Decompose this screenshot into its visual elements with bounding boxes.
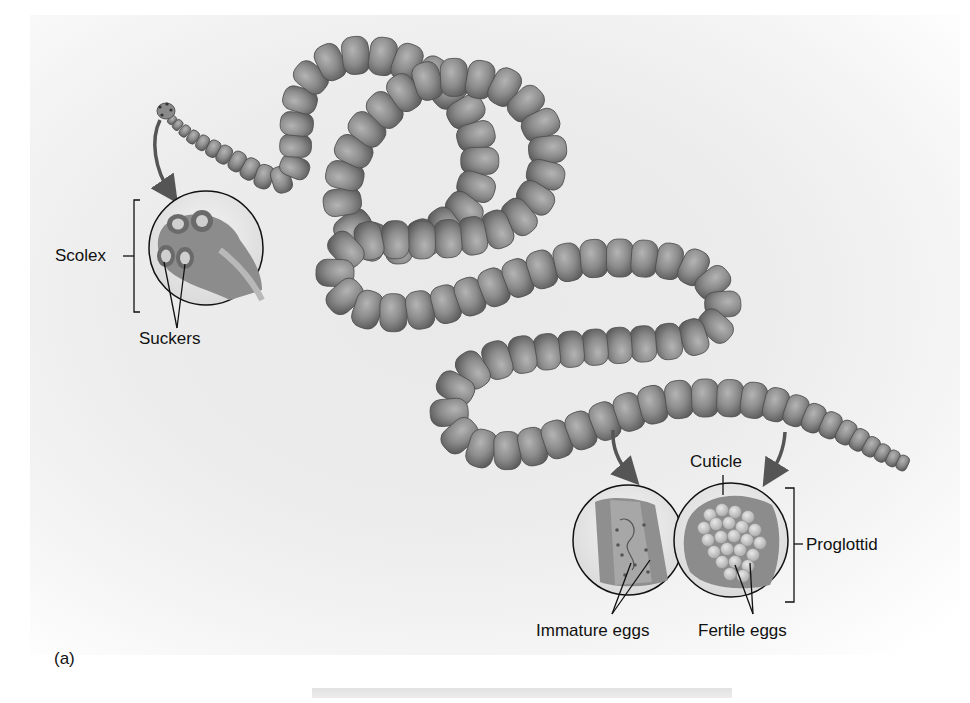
suckers-label: Suckers — [139, 330, 200, 347]
scolex-arrow — [155, 120, 170, 192]
proglottid-segment — [279, 134, 312, 158]
proglottid-segment — [433, 219, 463, 259]
scolex-head — [157, 102, 175, 119]
egg-icon — [715, 531, 728, 544]
egg-icon — [716, 556, 729, 569]
scolex-inset — [149, 191, 263, 305]
fertile-arrow — [770, 432, 785, 475]
immature-eggs-label: Immature eggs — [536, 622, 649, 639]
egg-icon — [724, 568, 737, 581]
proglottid-segment — [716, 379, 744, 417]
scolex-bracket — [134, 200, 140, 312]
egg-icon — [716, 504, 729, 517]
proglottid-segment — [630, 239, 659, 278]
panel-label: (a) — [54, 650, 75, 667]
scolex-label: Scolex — [55, 247, 106, 264]
proglottid-segment — [654, 322, 684, 361]
proglottid-segment — [629, 325, 657, 363]
proglottid-segment — [340, 35, 371, 75]
proglottid-segment — [605, 327, 633, 365]
egg-icon — [721, 543, 734, 556]
proglottid-segment — [581, 328, 609, 366]
immature-proglottid-inset — [573, 485, 683, 595]
egg-icon — [710, 518, 723, 531]
egg-icon — [734, 544, 747, 557]
proglottid-segment — [408, 221, 436, 260]
egg-icon — [754, 537, 767, 550]
tapeworm-figure: Scolex Suckers Cuticle Proglottid Immatu… — [0, 0, 970, 703]
proglottid-segment — [382, 220, 410, 258]
proglottid-segment — [461, 147, 499, 174]
proglottid-segment — [279, 111, 314, 138]
proglottid-segment — [691, 379, 719, 418]
egg-icon — [723, 517, 736, 530]
proglottid-segment — [607, 239, 634, 277]
egg-icon — [702, 534, 715, 547]
proglottid-label: Proglottid — [806, 536, 878, 553]
proglottid-segment — [380, 294, 407, 332]
proglottid-segment — [579, 238, 609, 278]
worm-body — [166, 35, 911, 472]
proglottid-segment — [440, 58, 468, 97]
proglottid-segment — [557, 330, 586, 368]
fertile-proglottid-inset — [674, 483, 788, 597]
cuticle-label: Cuticle — [690, 453, 742, 470]
proglottid-segment — [663, 379, 695, 420]
egg-icon — [698, 522, 711, 535]
egg-icon — [728, 530, 741, 543]
fertile-eggs-label: Fertile eggs — [698, 622, 787, 639]
tapeworm-illustration — [0, 0, 970, 703]
